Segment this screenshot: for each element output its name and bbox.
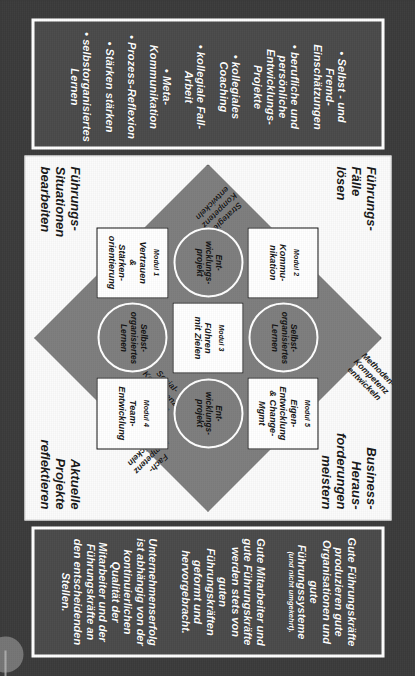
circle-selbstorganisiertes-lernen-top[interactable]: Selbst- organisiertes Lernen bbox=[248, 302, 318, 372]
list-item: • Stärken stärken bbox=[102, 31, 114, 142]
list-item: • selbstorganisiertes Lernen bbox=[68, 31, 93, 142]
list-item: • berufliche und persönliche Entwicklung… bbox=[251, 31, 300, 142]
competencies-panel: • Selbst - und Fremd- Einschätzungen • b… bbox=[31, 18, 384, 149]
screenshot-viewport: • Selbst - und Fremd- Einschätzungen • b… bbox=[0, 0, 415, 676]
circle-label: Ent- wicklungs- projekt bbox=[193, 389, 222, 436]
module-title: Kommu- nikation bbox=[266, 244, 287, 281]
statement-subtext: (und nicht umgekehrt). bbox=[286, 535, 294, 648]
competencies-list: • Selbst - und Fremd- Einschätzungen • b… bbox=[34, 21, 381, 146]
module-number: Modul 1 bbox=[152, 249, 159, 276]
module-number: Modul 3 bbox=[217, 324, 224, 351]
list-item: • kollegiales Coaching bbox=[216, 31, 241, 142]
grid-cell-r2c2: Modul 3 Führen mit Zielen bbox=[172, 302, 243, 373]
circle-entwicklungsprojekt-left[interactable]: Ent- wicklungs- projekt bbox=[173, 227, 243, 297]
list-item: • kollegiale Fall-Arbeit bbox=[182, 31, 207, 142]
statement-item: Gute Mitarbeiter und gute Führungskräfte… bbox=[178, 535, 266, 648]
module-box-3[interactable]: Modul 3 Führen mit Zielen bbox=[172, 302, 243, 373]
statements-list: Gute Führungskräfte produzieren gute Org… bbox=[34, 529, 381, 654]
module-box-2[interactable]: Modul 2 Kommu- nikation bbox=[247, 227, 318, 298]
list-item: • Prozess-Reflexion bbox=[125, 31, 137, 142]
edge-decoration-circle bbox=[0, 636, 23, 672]
grid-cell-r2c3: Ent- wicklungs- projekt bbox=[172, 377, 243, 448]
module-title: Team- Entwicklung bbox=[116, 386, 137, 440]
edge-decoration-line bbox=[4, 650, 6, 676]
statements-panel: Gute Führungskräfte produzieren gute Org… bbox=[31, 526, 384, 657]
grid-cell-r1c2: Selbst- organisiertes Lernen bbox=[247, 302, 318, 373]
circle-entwicklungsprojekt-right[interactable]: Ent- wicklungs- projekt bbox=[173, 378, 243, 448]
module-title: Führen mit Zielen bbox=[191, 316, 212, 359]
statement-text: Gute Führungskräfte produzieren gute Org… bbox=[295, 537, 357, 646]
module-number: Modul 5 bbox=[303, 399, 310, 426]
module-grid: Modul 2 Kommu- nikation Selbst- organisi… bbox=[97, 227, 319, 449]
grid-cell-r3c2: Selbst- organisiertes Lernen bbox=[97, 302, 168, 373]
module-number: Modul 2 bbox=[292, 249, 299, 276]
grid-cell-r3c1: Modul 1 Vertrauen & Stärken- orientierun… bbox=[97, 227, 168, 298]
module-box-1[interactable]: Modul 1 Vertrauen & Stärken- orientierun… bbox=[97, 227, 168, 298]
grid-cell-r1c1: Modul 2 Kommu- nikation bbox=[247, 227, 318, 298]
presentation-slide: • Selbst - und Fremd- Einschätzungen • b… bbox=[0, 0, 415, 676]
circle-label: Selbst- organisiertes Lernen bbox=[268, 309, 297, 366]
statement-text: Unternehmenserfolg ist abhängig von der … bbox=[59, 538, 159, 646]
circle-label: Ent- wicklungs- projekt bbox=[193, 239, 222, 286]
grid-cell-r3c3: Modul 4 Team- Entwicklung bbox=[97, 377, 168, 448]
module-title: Vertrauen & Stärken- orientierung bbox=[105, 235, 147, 289]
module-box-4[interactable]: Modul 4 Team- Entwicklung bbox=[97, 377, 168, 448]
grid-cell-r1c3: Modul 5 Eigen- Entwicklung & Change- Mgm… bbox=[247, 377, 318, 448]
competence-diamond: Methoden- Kompetenz entwickeln Fach- Kom… bbox=[34, 164, 382, 512]
list-item: • Selbst - und Fremd- Einschätzungen bbox=[310, 31, 347, 142]
list-item: • Meta- Kommunikation bbox=[147, 31, 172, 142]
module-box-5[interactable]: Modul 5 Eigen- Entwicklung & Change- Mgm… bbox=[247, 377, 318, 448]
circle-label: Selbst- organisiertes Lernen bbox=[118, 309, 147, 366]
circle-selbstorganisiertes-lernen-bottom[interactable]: Selbst- organisiertes Lernen bbox=[97, 302, 167, 372]
diagram-board: Führungs- Fälle lösen Business- Heraus- … bbox=[24, 155, 391, 520]
module-title: Eigen- Entwicklung & Change- Mgmt bbox=[256, 386, 298, 440]
module-number: Modul 4 bbox=[142, 399, 149, 426]
statement-item: Gute Führungskräfte produzieren gute Org… bbox=[286, 535, 357, 648]
statement-text: Gute Mitarbeiter und gute Führungskräfte… bbox=[179, 538, 266, 646]
statement-item: Unternehmenserfolg ist abhängig von der … bbox=[58, 535, 158, 648]
grid-cell-r2c1: Ent- wicklungs- projekt bbox=[172, 227, 243, 298]
